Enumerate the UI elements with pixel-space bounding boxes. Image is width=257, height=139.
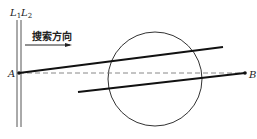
point-a	[17, 71, 21, 75]
search-direction-label: 搜索方向	[32, 30, 72, 42]
lower-line	[78, 73, 245, 92]
label-l1: L1	[9, 7, 21, 20]
label-b: B	[248, 69, 256, 80]
label-a: A	[7, 68, 15, 79]
arrowhead-icon	[65, 43, 72, 47]
label-l2: L2	[20, 7, 32, 20]
point-b	[243, 71, 247, 75]
diagram-canvas: L1 L2 搜索方向 A B	[0, 0, 257, 139]
upper-line	[19, 47, 223, 73]
